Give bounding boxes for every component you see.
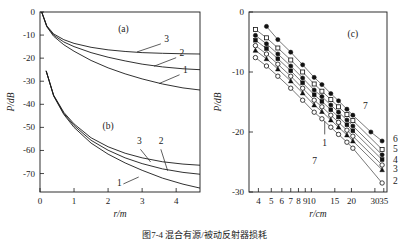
figure-container: 0-10-20-30-40-50-60-70 01234 (a)(b)32132… [0, 0, 409, 244]
panel-label-a: (a) [118, 24, 129, 35]
data-marker-5-4 [301, 76, 305, 80]
right-x-tick-label: 8 [296, 196, 301, 206]
data-marker-6-2 [276, 46, 280, 50]
right-x-tick-label: 4 [256, 196, 261, 206]
right-x-tick-label: 20 [347, 196, 357, 206]
data-marker-7-2 [289, 50, 293, 54]
right-panel-c: 0-10-20-30 4567891015203035 (c)65432717 … [205, 0, 409, 225]
panel-label-c: (c) [348, 29, 359, 40]
right-x-axis-title: r/cm [309, 209, 327, 219]
data-marker-1-4 [300, 98, 304, 102]
data-line-4 [255, 40, 382, 159]
data-marker-7-3 [301, 63, 305, 67]
data-marker-3-0 [253, 43, 257, 47]
data-marker-1-6 [320, 117, 324, 121]
data-marker-5-5 [312, 88, 316, 92]
data-marker-7-11 [380, 139, 384, 143]
data-marker-3-4 [300, 86, 304, 90]
data-marker-7-10 [369, 130, 373, 134]
data-marker-1-11 [380, 181, 384, 185]
left-annotations: (a)(b)321321 [103, 24, 188, 189]
right-panel-svg: 0-10-20-30 4567891015203035 (c)65432717 … [205, 0, 409, 225]
data-marker-6-6 [320, 89, 324, 93]
right-x-tick-label: 5 [269, 196, 274, 206]
data-marker-3-8 [336, 120, 340, 124]
left-panel-svg: 0-10-20-30-40-50-60-70 01234 (a)(b)32132… [0, 0, 205, 225]
data-marker-4-10 [351, 129, 355, 133]
curve-panel-a-2 [42, 12, 200, 70]
leader-b-3 [140, 149, 150, 162]
left-x-tick-label: 2 [106, 196, 111, 206]
data-marker-7-9 [351, 113, 355, 117]
data-marker-4-0 [254, 38, 258, 42]
data-line-1 [255, 58, 382, 183]
data-marker-6-3 [289, 58, 293, 62]
data-marker-2-0 [253, 48, 258, 52]
inner-label-7-lower: 7 [312, 156, 317, 166]
right-y-tick-label: -20 [232, 127, 244, 137]
data-marker-5-8 [336, 110, 340, 114]
left-x-tick-label: 0 [38, 196, 43, 206]
data-marker-7-7 [336, 99, 340, 103]
curve-label-a-3: 3 [164, 34, 169, 44]
right-x-tick-label: 35 [379, 196, 389, 206]
left-y-tick-label: -70 [23, 169, 35, 179]
data-marker-1-1 [264, 64, 268, 68]
data-marker-5-1 [264, 42, 268, 46]
right-x-tick-label: 6 [280, 196, 285, 206]
data-marker-6-5 [312, 82, 316, 86]
data-marker-7-8 [345, 107, 349, 111]
left-x-axis-title: r/m [113, 209, 126, 219]
data-marker-5-10 [351, 124, 355, 128]
left-x-tick-label: 4 [174, 196, 179, 206]
leader-a-3 [137, 44, 161, 52]
data-marker-2-1 [264, 56, 269, 60]
curve-label-a-1: 1 [183, 65, 188, 75]
edge-label-5: 5 [393, 144, 398, 154]
right-x-tick-label: 10 [307, 196, 317, 206]
inner-label-1: 1 [322, 138, 327, 148]
data-marker-3-9 [345, 128, 349, 132]
edge-label-2: 2 [393, 176, 398, 186]
data-marker-6-0 [253, 27, 257, 31]
data-marker-4-3 [289, 69, 293, 73]
data-marker-7-6 [329, 92, 333, 96]
data-marker-6-11 [380, 147, 384, 151]
data-marker-3-3 [289, 74, 293, 78]
left-x-tick-label: 1 [72, 196, 77, 206]
data-marker-5-6 [320, 95, 324, 99]
data-marker-1-8 [336, 132, 340, 136]
data-marker-4-7 [329, 108, 333, 112]
edge-label-4: 4 [393, 155, 398, 165]
data-marker-4-8 [337, 115, 341, 119]
data-marker-3-5 [312, 98, 316, 102]
left-y-tick-label: -10 [23, 30, 35, 40]
data-marker-7-0 [264, 24, 268, 28]
data-marker-1-0 [253, 55, 257, 59]
right-annotations: (c)65432717 [312, 29, 398, 186]
leader-a-1 [159, 75, 179, 84]
data-marker-7-5 [320, 83, 324, 87]
right-x-tick-label: 7 [288, 196, 293, 206]
data-marker-3-1 [264, 52, 268, 56]
data-marker-7-1 [276, 38, 280, 42]
data-marker-4-11 [380, 158, 384, 162]
data-marker-1-5 [312, 110, 316, 114]
right-y-axis-title: P/dB [213, 92, 223, 112]
data-marker-3-7 [329, 113, 333, 117]
left-x-ticks: 01234 [38, 188, 179, 206]
data-marker-3-2 [276, 62, 280, 66]
curve-label-a-2: 2 [180, 48, 185, 58]
left-y-tick-label: -60 [23, 145, 35, 155]
right-y-ticks: 0-10-20-30 [232, 7, 253, 197]
curve-panel-b-1 [46, 71, 200, 188]
left-y-tick-label: -50 [23, 122, 35, 132]
left-y-tick-label: -40 [23, 99, 35, 109]
left-y-tick-label: -30 [23, 76, 35, 86]
data-marker-6-7 [329, 98, 333, 102]
data-marker-1-10 [351, 146, 355, 150]
data-marker-4-5 [312, 93, 316, 97]
data-marker-6-1 [264, 36, 268, 40]
left-panel-ab: 0-10-20-30-40-50-60-70 01234 (a)(b)32132… [0, 0, 205, 225]
curve-label-b-2: 2 [159, 136, 164, 146]
